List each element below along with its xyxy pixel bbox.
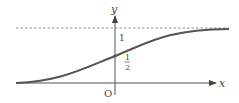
sigmoid-diagram: y x O 1 1 2 — [0, 0, 239, 103]
intercept-numerator: 1 — [125, 53, 130, 62]
intercept-denominator: 2 — [125, 63, 130, 72]
y-axis-label: y — [110, 3, 118, 16]
y-intercept-point — [113, 54, 116, 57]
asymptote-value-label: 1 — [119, 33, 125, 43]
origin-label: O — [104, 88, 112, 99]
x-axis-label: x — [219, 77, 226, 90]
